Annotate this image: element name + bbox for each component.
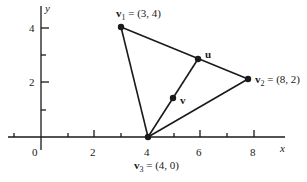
x-tick-0: 0 (32, 146, 38, 158)
label-v1: v1 = (3, 4) (116, 7, 161, 22)
point-v3 (145, 134, 151, 140)
y-tick-4: 4 (29, 22, 35, 34)
x-tick-2: 2 (90, 146, 96, 158)
y-axis (41, 6, 49, 150)
label-u: u (205, 48, 211, 60)
y-tick-2: 2 (29, 76, 35, 88)
point-v (170, 95, 176, 101)
x-tick-8: 8 (250, 146, 256, 158)
point-v1 (118, 24, 124, 30)
y-axis-label: y (44, 2, 50, 14)
triangle (121, 27, 248, 137)
x-tick-6: 6 (196, 146, 202, 158)
point-u (195, 56, 201, 62)
triangle-diagram: 0 2 4 6 8 2 4 x y v1 = (3, 4) v2 = (8, 2… (0, 0, 307, 182)
x-axis-label: x (279, 142, 285, 154)
x-tick-4: 4 (144, 146, 150, 158)
label-v2: v2 = (8, 2) (255, 73, 300, 88)
label-v3: v3 = (4, 0) (134, 159, 179, 174)
label-v: v (180, 94, 186, 106)
point-v2 (245, 76, 251, 82)
